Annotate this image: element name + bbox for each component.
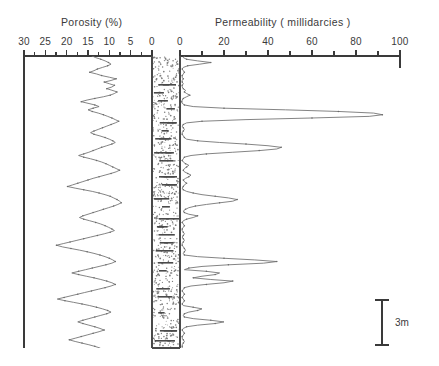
stipple-dot	[164, 327, 165, 328]
porosity-tick-labels: 302520151050	[18, 36, 155, 47]
stipple-dot	[168, 155, 170, 157]
stipple-dot	[176, 96, 178, 98]
stipple-dot	[154, 222, 156, 224]
porosity-point	[92, 111, 94, 113]
porosity-point	[77, 182, 79, 184]
stipple-dot	[166, 294, 167, 295]
stipple-dot	[176, 336, 177, 337]
stipple-dot	[175, 251, 176, 252]
stipple-dot	[163, 309, 164, 310]
porosity-point	[119, 169, 121, 171]
stipple-dot	[154, 114, 155, 115]
stipple-dot	[175, 59, 176, 60]
stipple-dot	[175, 65, 176, 66]
permeability-point	[184, 137, 186, 139]
stipple-dot	[177, 284, 178, 285]
stipple-dot	[157, 110, 158, 111]
stipple-dot	[153, 315, 154, 316]
stipple-dot	[169, 275, 171, 277]
permeability-point	[184, 212, 186, 214]
porosity-point	[89, 72, 91, 74]
permeability-point	[186, 182, 188, 184]
stipple-dot	[177, 61, 178, 62]
porosity-tick-label: 25	[40, 36, 52, 47]
stipple-dot	[171, 79, 172, 80]
stipple-dot	[157, 74, 158, 75]
permeability-point	[210, 62, 212, 64]
stipple-dot	[159, 223, 160, 224]
stipple-dot	[158, 61, 159, 62]
porosity-point	[97, 68, 99, 70]
stipple-dot	[174, 169, 175, 170]
stipple-dot	[174, 245, 175, 246]
stipple-dot	[163, 104, 164, 105]
porosity-point	[101, 147, 103, 149]
stipple-dot	[158, 142, 160, 144]
stipple-dot	[168, 92, 170, 94]
stipple-dot	[170, 150, 171, 151]
stipple-dot	[154, 86, 156, 88]
permeability-point	[232, 280, 234, 282]
stipple-dot	[159, 136, 160, 137]
stipple-dot	[158, 73, 159, 74]
stipple-dot	[161, 172, 163, 174]
permeability-curve	[182, 56, 383, 348]
stipple-dot	[173, 95, 175, 97]
stipple-dot	[169, 147, 170, 148]
permeability-point	[184, 287, 186, 289]
porosity-point	[108, 62, 110, 64]
stipple-dot	[174, 143, 176, 145]
stipple-dot	[176, 73, 177, 74]
permeability-point	[184, 91, 186, 93]
stipple-dot	[154, 281, 155, 282]
stipple-dot	[178, 254, 179, 255]
stipple-dot	[173, 197, 174, 198]
porosity-point	[115, 284, 117, 286]
stipple-dot	[164, 103, 165, 104]
stipple-dot	[162, 345, 164, 347]
shale-streak	[159, 218, 169, 220]
stipple-dot	[153, 291, 155, 293]
stipple-dot	[176, 153, 177, 154]
stipple-dot	[166, 165, 167, 166]
stipple-dot	[160, 167, 161, 168]
stipple-dot	[159, 258, 161, 260]
permeability-point	[186, 166, 188, 168]
stipple-dot	[159, 214, 160, 215]
stipple-dot	[176, 242, 177, 243]
shale-streak	[162, 206, 170, 208]
stipple-dot	[164, 89, 165, 90]
stipple-dot	[153, 250, 154, 251]
stipple-dot	[158, 157, 160, 159]
stipple-dot	[158, 298, 159, 299]
porosity-point	[113, 205, 115, 207]
stipple-dot	[162, 94, 163, 95]
stipple-dot	[154, 230, 155, 231]
stipple-dot	[152, 127, 153, 128]
stipple-dot	[169, 210, 170, 211]
stipple-dot	[162, 316, 164, 318]
porosity-point	[106, 313, 108, 315]
porosity-point	[97, 235, 99, 237]
stipple-dot	[170, 320, 172, 322]
stipple-dot	[159, 144, 160, 145]
permeability-point	[184, 248, 186, 250]
stipple-dot	[165, 313, 166, 314]
stipple-dot	[171, 129, 172, 130]
stipple-dot	[172, 252, 173, 253]
stipple-dot	[164, 60, 165, 61]
stipple-dot	[170, 158, 171, 159]
stipple-dot	[158, 187, 159, 188]
porosity-point	[83, 189, 85, 191]
stipple-dot	[157, 164, 158, 165]
stipple-dot	[171, 308, 172, 309]
permeability-point	[382, 114, 384, 116]
stipple-dot	[165, 95, 166, 96]
stipple-dot	[177, 111, 178, 112]
stipple-dot	[174, 148, 175, 149]
porosity-point	[98, 192, 100, 194]
stipple-dot	[172, 120, 173, 121]
permeability-point	[184, 313, 186, 315]
stipple-dot	[159, 207, 160, 208]
porosity-point	[102, 127, 104, 129]
